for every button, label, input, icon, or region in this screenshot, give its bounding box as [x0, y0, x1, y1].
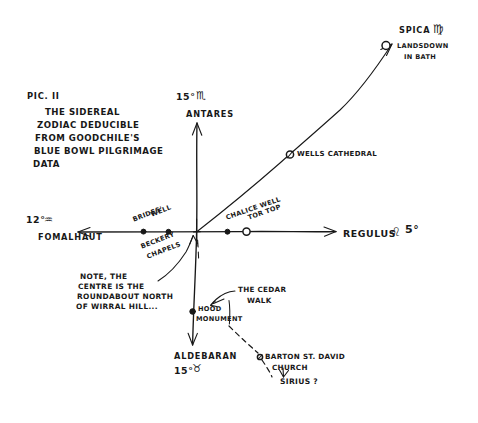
caption-line-2: ZODIAC DEDUCIBLE	[37, 119, 139, 131]
west-star-label: FOMALHAUT	[38, 233, 103, 243]
leo-glyph-icon: ♌	[390, 225, 401, 239]
sketch-sheet: PIC. II THE SIDEREAL ZODIAC DEDUCIBLE FR…	[0, 0, 478, 423]
diagonal-axis-spica	[197, 44, 392, 232]
landsdown-label-line-1: LANDSDOWN	[397, 43, 449, 51]
south-star-label: ALDEBARAN	[174, 352, 237, 362]
diagonal-star-label: SPICA	[399, 26, 430, 36]
note-line-4: OF WIRRAL HILL...	[76, 302, 158, 313]
barton-st-david-label-line-1: BARTON ST. DAVID	[265, 353, 345, 361]
caption-line-4: BLUE BOWL PILGRIMAGE	[34, 145, 163, 157]
barton-st-david-label-line-2: CHURCH	[272, 364, 308, 372]
scorpio-glyph-icon: ♏	[196, 90, 206, 103]
east-degree: 5°	[405, 224, 419, 237]
marker-tor-top[interactable]	[243, 228, 250, 235]
marker-brides-well[interactable]	[141, 229, 146, 234]
hood-monument-label-line-1: HOOD	[198, 306, 221, 314]
west-degree: 12°	[26, 214, 46, 225]
north-star-label: ANTARES	[186, 110, 234, 120]
taurus-glyph-icon: ♉	[192, 363, 202, 376]
cedar-walk-label-line-1: THE CEDAR	[238, 286, 286, 294]
caption-line-5: DATA	[33, 158, 60, 170]
plate-label: PIC. II	[27, 92, 60, 102]
wells-cathedral-label: WELLS CATHEDRAL	[297, 150, 377, 158]
marker-wells-cathedral[interactable]	[286, 151, 293, 158]
marker-hood-monument[interactable]	[190, 309, 196, 315]
marker-barton-st-david[interactable]	[257, 354, 262, 359]
caption-line-1: THE SIDEREAL	[45, 106, 120, 118]
cedar-walk-label-line-2: WALK	[247, 297, 272, 305]
caption-line-3: FROM GOODCHILE'S	[35, 132, 140, 144]
horizontal-axis	[78, 227, 336, 237]
hood-monument-label-line-2: MONUMENT	[196, 316, 243, 324]
landsdown-label-line-2: IN BATH	[404, 54, 436, 62]
sirius-label: SIRIUS ?	[280, 378, 318, 387]
south-degree: 15°	[174, 365, 194, 376]
east-star-label: REGULUS	[343, 228, 396, 239]
aquarius-glyph-icon: ♒	[44, 214, 54, 226]
north-degree: 15°	[176, 91, 196, 102]
marker-landsdown-in-bath[interactable]	[382, 42, 390, 50]
virgo-glyph-icon: ♍	[433, 22, 445, 36]
marker-chalice-well[interactable]	[225, 229, 230, 234]
